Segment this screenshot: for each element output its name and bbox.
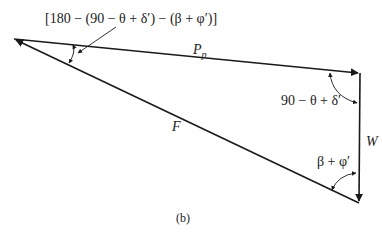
left-angle-arc [69,45,74,63]
force-polygon-diagram [0,0,382,236]
f-force-line [16,40,359,203]
pp-label-sub: p [202,49,207,60]
f-force-label: F [172,120,181,134]
left-angle-label: [180 − (90 − θ + δ′) − (β + φ′)] [45,12,217,26]
bottom-angle-label: β + φ′ [317,155,350,169]
figure-caption: (b) [176,212,190,224]
bottom-angle-arc [332,173,356,190]
pp-force-label: Pp [193,43,207,60]
pp-label-main: P [193,42,202,57]
w-force-line [359,73,360,201]
w-force-label: W [366,135,378,149]
top-right-angle-label: 90 − θ + δ′ [281,94,341,108]
pp-force-line [14,39,358,73]
